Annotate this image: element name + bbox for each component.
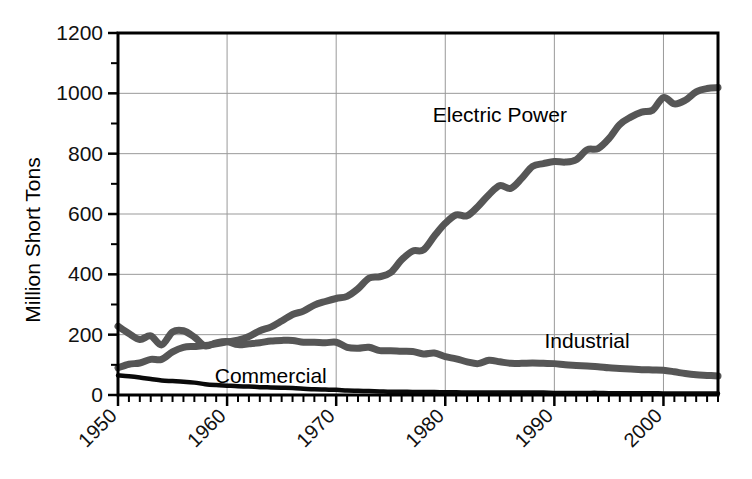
- y-tick-label-400: 400: [68, 262, 103, 285]
- series-label-electric-power: Electric Power: [433, 103, 567, 126]
- line-chart: 020040060080010001200 195019601970198019…: [0, 0, 752, 479]
- x-tick-label-1970: 1970: [292, 404, 339, 451]
- y-tick-label-200: 200: [68, 323, 103, 346]
- x-tick-label-2000: 2000: [619, 404, 666, 451]
- chart-container: 020040060080010001200 195019601970198019…: [0, 0, 752, 479]
- x-axis-ticks: [118, 395, 718, 406]
- x-axis-tick-labels: 195019601970198019902000: [74, 404, 666, 451]
- series-label-commercial: Commercial: [215, 364, 327, 387]
- y-axis-tick-labels: 020040060080010001200: [56, 21, 103, 406]
- series-label-industrial: Industrial: [544, 329, 629, 352]
- x-tick-label-1980: 1980: [401, 404, 448, 451]
- x-tick-label-1950: 1950: [74, 404, 121, 451]
- y-tick-label-800: 800: [68, 142, 103, 165]
- y-tick-label-1000: 1000: [56, 81, 103, 104]
- y-tick-label-600: 600: [68, 202, 103, 225]
- x-tick-label-1960: 1960: [183, 404, 230, 451]
- y-tick-label-0: 0: [91, 383, 103, 406]
- y-axis-title: Million Short Tons: [21, 157, 44, 322]
- x-tick-label-1990: 1990: [510, 404, 557, 451]
- y-tick-label-1200: 1200: [56, 21, 103, 44]
